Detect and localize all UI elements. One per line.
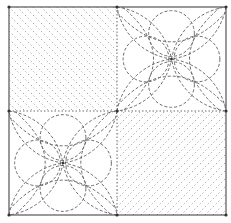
quilt-block-diagram [0,0,231,223]
quilt-block-svg [0,0,231,223]
quadrant-bottom-left-floral [9,111,117,215]
quadrant-bottom-right-hatching [13,111,231,215]
quadrant-top-left-hatching [0,7,231,111]
quadrant-top-right-floral [117,7,226,111]
